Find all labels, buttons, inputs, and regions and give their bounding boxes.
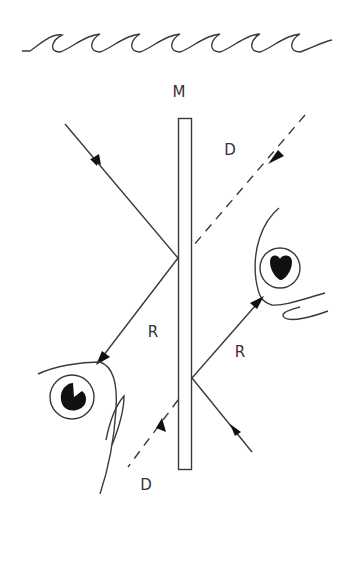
direct-ray-bottom [128, 400, 178, 467]
mirror [179, 119, 192, 470]
reflected-ray-left [100, 258, 178, 360]
water-surface [22, 34, 332, 52]
direct-label-top: D [224, 141, 236, 159]
incident-ray-right [192, 378, 252, 452]
arrowhead-icon [230, 424, 241, 436]
reflected-label-left: R [148, 323, 158, 341]
direct-ray-top [193, 115, 305, 246]
arrowhead-icon [156, 418, 166, 432]
fish-eye-pupil [61, 383, 86, 411]
direct-label-bottom: D [140, 476, 152, 494]
incident-ray-left [65, 124, 178, 258]
fish-eye-pupil [270, 256, 292, 280]
mirror-diagram: M R D R D [0, 0, 342, 573]
mirror-label: M [173, 83, 186, 101]
reflected-ray-right [192, 298, 262, 378]
fish-left [38, 362, 124, 494]
reflected-label-right: R [235, 343, 245, 361]
fish-right [255, 208, 328, 319]
arrowhead-icon [268, 150, 284, 164]
